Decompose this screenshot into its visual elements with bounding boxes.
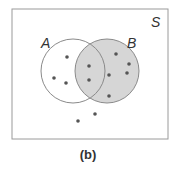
point-a-only <box>64 81 68 85</box>
venn-diagram: S A B (b) <box>0 0 176 169</box>
point-b-only <box>107 73 111 77</box>
point-b-only <box>127 62 131 66</box>
point-outside <box>76 119 80 123</box>
point-a-only <box>52 76 56 80</box>
point-outside <box>93 112 97 116</box>
figure-caption: (b) <box>80 147 97 162</box>
point-b-only <box>125 71 129 75</box>
point-b-only <box>114 52 118 56</box>
point-a-and-b <box>87 78 91 82</box>
point-a-and-b <box>87 64 91 68</box>
universe-label: S <box>151 14 161 30</box>
set-b-label: B <box>127 35 136 51</box>
set-a-label: A <box>40 35 50 51</box>
point-a-only <box>65 55 69 59</box>
point-b-only <box>107 94 111 98</box>
